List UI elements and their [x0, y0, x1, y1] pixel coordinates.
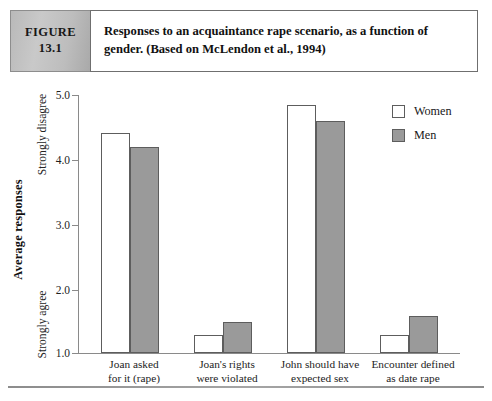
group-label-1-line-1: were violated — [173, 371, 281, 385]
y-tick-3 — [72, 225, 79, 226]
group-label-0: Joan asked for it (rape) — [80, 357, 188, 385]
bar-men-group-0 — [130, 147, 159, 353]
bar-men-group-1 — [223, 322, 252, 353]
page-bottom-rule — [8, 386, 484, 388]
bar-women-group-1 — [194, 335, 223, 353]
legend-label-women: Women — [414, 104, 452, 119]
y-axis-anchor-low: Strongly agree — [36, 265, 49, 385]
bar-women-group-3 — [380, 335, 409, 353]
group-label-2: John should have expected sex — [266, 357, 374, 385]
bar-men-group-3 — [409, 316, 438, 353]
y-tick-2 — [72, 290, 79, 291]
group-label-2-line-1: expected sex — [266, 371, 374, 385]
bar-women-group-0 — [101, 133, 130, 353]
bar-chart: 5.0 4.0 3.0 2.0 1.0 Average responses St… — [0, 0, 492, 401]
chart-legend: Women Men — [392, 104, 452, 152]
group-label-0-line-0: Joan asked — [80, 357, 188, 371]
bar-women-group-2 — [287, 105, 316, 353]
y-tick-label-3: 3.0 — [42, 219, 70, 231]
bar-men-group-2 — [316, 121, 345, 353]
legend-swatch-women-icon — [392, 105, 405, 118]
y-axis-anchor-high: Strongly disagree — [36, 75, 49, 195]
x-axis-line — [78, 353, 460, 354]
group-label-3-line-0: Encounter defined — [359, 357, 467, 371]
group-label-1-line-0: Joan's rights — [173, 357, 281, 371]
legend-swatch-men-icon — [392, 129, 405, 142]
legend-label-men: Men — [414, 128, 436, 143]
group-label-1: Joan's rights were violated — [173, 357, 281, 385]
group-label-2-line-0: John should have — [266, 357, 374, 371]
y-tick-1 — [72, 353, 79, 354]
y-tick-4 — [72, 160, 79, 161]
legend-item-women: Women — [392, 104, 452, 119]
group-label-3-line-1: as date rape — [359, 371, 467, 385]
y-tick-5 — [72, 95, 79, 96]
group-label-3: Encounter defined as date rape — [359, 357, 467, 385]
group-label-0-line-1: for it (rape) — [80, 371, 188, 385]
legend-item-men: Men — [392, 128, 452, 143]
y-axis-title: Average responses — [11, 160, 26, 300]
